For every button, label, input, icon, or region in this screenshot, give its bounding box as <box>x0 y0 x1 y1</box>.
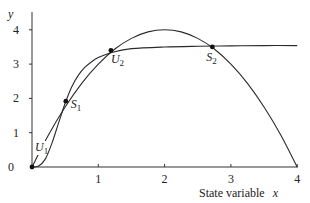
y-tick-label: 1 <box>13 126 19 140</box>
origin-label: 0 <box>8 160 14 174</box>
x-tick-label: 2 <box>162 172 168 186</box>
x-axis-label: State variable x <box>199 186 279 200</box>
x-tick-label: 4 <box>294 172 300 186</box>
x-axis-label-var: x <box>272 186 279 200</box>
y-ticks: 1234 <box>13 23 32 140</box>
x-tick-label: 3 <box>228 172 234 186</box>
y-tick-label: 2 <box>13 91 19 105</box>
chart: 12340 1234 y State variable x U1S1U2S2 <box>0 0 310 203</box>
y-axis-label: y <box>7 7 14 21</box>
x-ticks: 12340 <box>8 160 300 186</box>
point-label-s1: S1 <box>71 97 82 113</box>
x-axis-label-text: State variable <box>199 186 265 200</box>
point-label-s2: S2 <box>206 50 217 66</box>
y-tick-label: 4 <box>13 23 19 37</box>
point-label-u2: U2 <box>111 52 124 68</box>
equilibrium-point-s1 <box>63 99 68 104</box>
x-tick-label: 1 <box>95 172 101 186</box>
equilibrium-point-s2 <box>210 45 215 50</box>
equilibrium-point-u1 <box>30 165 35 170</box>
equilibrium-points: U1S1U2S2 <box>30 45 217 170</box>
y-tick-label: 3 <box>13 57 19 71</box>
axes: 12340 1234 y State variable x <box>7 7 300 200</box>
